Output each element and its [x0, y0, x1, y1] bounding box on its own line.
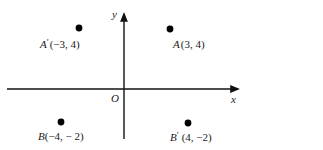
point-b-prime-coords: (4, −2) [182, 131, 212, 144]
point-a-label: A(3, 4) [172, 38, 205, 51]
point-a-prime-coords: (−3, 4) [50, 38, 80, 51]
x-axis-label: x [230, 93, 236, 105]
point-a-prime-label: A′(−3, 4) [39, 37, 80, 51]
point-b-marker [58, 119, 65, 126]
point-a-prime-prime: ′ [47, 37, 49, 47]
point-a-letter: A [172, 38, 180, 50]
point-a-coords: (3, 4) [181, 38, 205, 51]
point-b-label: B(−4, − 2) [38, 130, 84, 143]
origin-label: O [111, 92, 119, 104]
point-b-prime-label: B′(4, −2) [170, 130, 212, 144]
y-axis-label: y [111, 8, 117, 20]
point-a-prime-marker [76, 25, 83, 32]
point-b-prime-marker [185, 120, 192, 127]
point-b-coords: (−4, − 2) [45, 130, 84, 143]
point-b-prime-prime: ′ [177, 130, 179, 140]
point-a-marker [167, 26, 174, 33]
coordinate-plane-diagram: y O x A′(−3, 4) A(3, 4) B(−4, − 2) B′(4,… [0, 0, 323, 150]
